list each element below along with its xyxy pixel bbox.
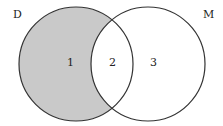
region-label-3: 3 <box>150 56 157 69</box>
venn-diagram: D M 1 2 3 <box>0 0 223 126</box>
region-label-1: 1 <box>67 56 74 69</box>
set-label-d: D <box>13 8 22 21</box>
region-label-2: 2 <box>109 56 116 69</box>
set-label-m: M <box>203 8 214 21</box>
